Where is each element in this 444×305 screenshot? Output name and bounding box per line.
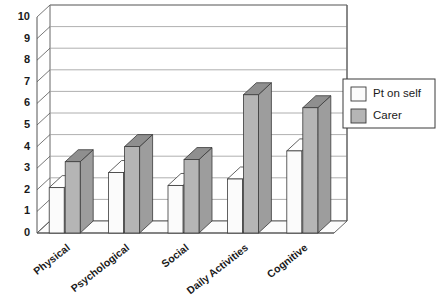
y-axis-tick-label: 9 xyxy=(24,32,30,44)
y-axis-tick-label: 0 xyxy=(24,226,30,238)
y-axis-tick-label: 4 xyxy=(24,140,31,152)
y-axis-tick-label: 2 xyxy=(24,183,30,195)
axis-tick xyxy=(37,178,50,190)
axis-tick xyxy=(37,70,50,82)
chart-canvas: 012345678910PhysicalPsychologicalSocialD… xyxy=(0,0,444,305)
bar-front xyxy=(168,185,183,233)
y-axis-tick-label: 7 xyxy=(24,75,30,87)
axis-tick xyxy=(37,91,50,103)
x-axis-category-label: Psychological xyxy=(68,241,131,294)
axis-tick xyxy=(37,135,50,147)
bar-front xyxy=(65,162,80,233)
axis-tick xyxy=(37,199,50,211)
bar-side xyxy=(199,148,212,233)
bar-front xyxy=(303,108,318,233)
bar-side xyxy=(318,96,331,233)
axis-tick xyxy=(37,5,50,17)
axis-tick xyxy=(37,48,50,60)
bar xyxy=(65,150,93,233)
y-axis-tick-label: 1 xyxy=(24,204,30,216)
y-axis-tick-label: 5 xyxy=(24,118,30,130)
x-axis-category-label: Daily Activities xyxy=(184,241,250,296)
bar-side xyxy=(258,83,271,233)
y-axis-tick-label: 3 xyxy=(24,161,30,173)
x-axis-category-label: Physical xyxy=(31,241,72,277)
bar-front xyxy=(49,188,64,233)
bar xyxy=(303,96,331,233)
bar-front xyxy=(125,147,140,233)
x-axis-category-label: Cognitive xyxy=(264,241,309,280)
bar-side xyxy=(140,135,153,233)
legend-swatch xyxy=(351,87,366,101)
bar-front xyxy=(227,179,242,233)
bar-front xyxy=(243,95,258,233)
axis-tick xyxy=(37,156,50,168)
axis-tick xyxy=(37,27,50,39)
legend-label: Pt on self xyxy=(373,87,422,99)
legend-label: Carer xyxy=(373,109,402,121)
bar-front xyxy=(109,173,124,233)
y-axis-tick-label: 8 xyxy=(24,53,30,65)
bar-front xyxy=(184,160,199,233)
bar xyxy=(243,83,271,233)
bar xyxy=(125,135,153,233)
bar xyxy=(184,148,212,233)
y-axis-tick-label: 10 xyxy=(18,10,30,22)
x-axis-category-label: Social xyxy=(159,241,191,270)
legend-swatch xyxy=(351,109,366,123)
y-axis-tick-label: 6 xyxy=(24,96,30,108)
legend: Pt on selfCarer xyxy=(343,79,435,128)
axis-tick xyxy=(37,113,50,125)
bar-front xyxy=(287,151,302,233)
bar-side xyxy=(80,150,93,233)
bar-chart: 012345678910PhysicalPsychologicalSocialD… xyxy=(0,0,444,305)
